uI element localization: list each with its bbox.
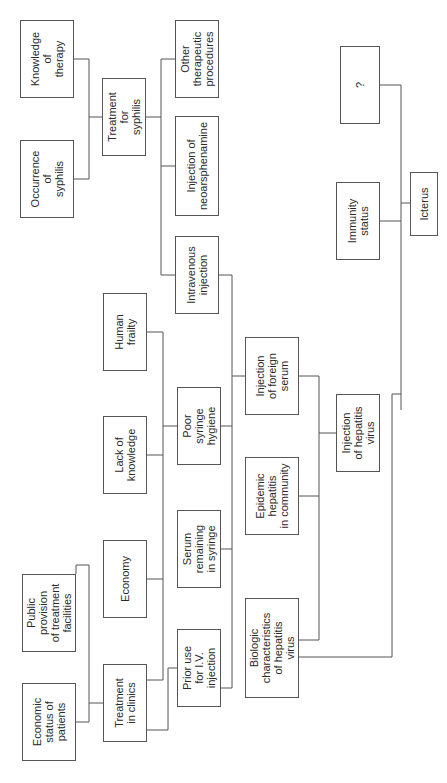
node-public-provision: Public provision of treatment facilities: [22, 574, 76, 652]
node-label: Serum remaining in syringe: [181, 525, 217, 573]
node-other-therapeutic-procedures: Other therapeutic procedures: [175, 20, 219, 98]
node-economy: Economy: [103, 540, 147, 618]
node-injection-foreign-serum: Injection of foreign serum: [245, 337, 299, 415]
node-poor-syringe-hygiene: Poor syringe hygiene: [177, 387, 221, 465]
node-treatment-in-clinics: Treatment in clinics: [103, 664, 147, 742]
node-label: Economic status of patients: [31, 698, 67, 746]
node-label: Biologic characteristics of hepatitis vi…: [248, 613, 296, 683]
node-label: Human frailty: [113, 314, 137, 349]
node-label: Other therapeutic procedures: [179, 31, 215, 86]
node-label: Prior use for I.V. injection: [181, 646, 217, 690]
node-prior-use-iv: Prior use for I.V. injection: [177, 629, 221, 707]
node-label: Intravenous injection: [185, 246, 209, 303]
node-lack-of-knowledge: Lack of knowledge: [103, 416, 147, 494]
node-unknown: ?: [340, 46, 380, 124]
node-label: Injection of neoarsphenamine: [185, 122, 209, 210]
node-intravenous-injection: Intravenous injection: [175, 236, 219, 314]
node-label: Injection of foreign serum: [254, 353, 290, 399]
node-label: Icterus: [418, 187, 430, 220]
node-label: ?: [354, 82, 366, 88]
node-serum-remaining: Serum remaining in syringe: [177, 510, 221, 588]
causal-diagram: Knowledge of therapy Occurrence of syphi…: [0, 0, 447, 783]
node-label: Economy: [119, 556, 131, 602]
node-label: Public provision of treatment facilities: [25, 584, 73, 643]
node-label: Epidemic hepatitis in community: [254, 464, 290, 529]
node-knowledge-of-therapy: Knowledge of therapy: [20, 20, 74, 98]
node-label: Immunity status: [346, 199, 370, 244]
node-label: Treatment for syphilis: [106, 92, 142, 142]
node-icterus: Icterus: [410, 172, 438, 236]
node-label: Injection of hepatitis virus: [340, 406, 376, 459]
node-biologic-characteristics: Biologic characteristics of hepatitis vi…: [245, 598, 299, 698]
node-human-frailty: Human frailty: [103, 293, 147, 371]
node-injection-of-neoarsphenamine: Injection of neoarsphenamine: [175, 116, 219, 216]
node-economic-status: Economic status of patients: [22, 683, 76, 761]
node-injection-hepatitis-virus: Injection of hepatitis virus: [336, 394, 380, 472]
node-label: Poor syringe hygiene: [181, 407, 217, 446]
node-treatment-for-syphilis: Treatment for syphilis: [102, 78, 146, 156]
node-label: Knowledge of therapy: [29, 32, 65, 86]
node-epidemic-hepatitis: Epidemic hepatitis in community: [245, 457, 299, 535]
node-label: Treatment in clinics: [113, 678, 137, 728]
node-label: Lack of knowledge: [113, 429, 137, 482]
node-label: Occurrence of syphilis: [29, 151, 65, 208]
node-occurrence-of-syphilis: Occurrence of syphilis: [20, 140, 74, 218]
node-immunity-status: Immunity status: [336, 182, 380, 260]
